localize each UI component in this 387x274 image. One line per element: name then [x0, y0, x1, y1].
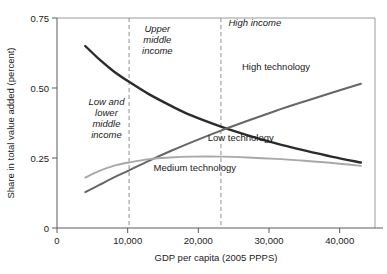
series-label-medium-technology: Medium technology	[154, 162, 237, 173]
series-label-low-technology: Low technology	[208, 132, 274, 143]
band-label-high-income: High income	[228, 17, 281, 28]
series-line-low-technology	[85, 46, 361, 162]
y-tick-label: 0.75	[31, 13, 50, 24]
chart-figure: 00.250.500.75 010,00020,00030,00040,000 …	[0, 0, 387, 274]
y-tick-label: 0	[44, 223, 49, 234]
band-label-low-and-lower-middle-income: Low andlowermiddleincome	[89, 96, 126, 140]
y-tick-label: 0.50	[31, 83, 50, 94]
x-tick-label: 0	[54, 235, 59, 246]
line-chart: 00.250.500.75 010,00020,00030,00040,000 …	[0, 0, 387, 274]
series-label-high-technology: High technology	[242, 61, 310, 72]
x-tick-label: 30,000	[254, 235, 283, 246]
series-labels: Low technologyHigh technologyMedium tech…	[154, 61, 311, 173]
x-tick-label: 40,000	[325, 235, 354, 246]
y-axis-title: Share in total value added (percent)	[5, 47, 16, 198]
band-label-upper-middle-income: Uppermiddleincome	[142, 23, 173, 56]
y-tick-label: 0.25	[31, 153, 50, 164]
x-tick-label: 20,000	[184, 235, 213, 246]
x-axis-ticks: 010,00020,00030,00040,000	[54, 228, 354, 246]
x-tick-label: 10,000	[113, 235, 142, 246]
x-axis-title: GDP per capita (2005 PPPS)	[155, 252, 278, 263]
income-band-labels: Low andlowermiddleincomeUppermiddleincom…	[89, 17, 282, 139]
y-axis-ticks: 00.250.500.75	[31, 13, 58, 234]
